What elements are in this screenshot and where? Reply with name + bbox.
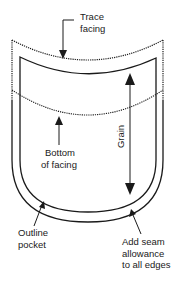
outer-outline	[12, 100, 163, 222]
seam-allowance-label: Add seam allowance to all edges	[122, 236, 171, 271]
seam-allowance-leader	[133, 215, 141, 234]
bottom-of-facing-label: Bottom of facing	[41, 147, 77, 170]
grain-arrowhead-bottom	[125, 183, 135, 195]
trace-facing-label: Trace facing	[80, 11, 105, 34]
facing-bottom-line	[12, 90, 163, 115]
seam-allowance-arrowhead	[129, 209, 136, 217]
seam-allowance-outline-top	[12, 40, 163, 60]
grain-label: Grain	[115, 125, 126, 148]
grain-arrowhead-top	[125, 73, 135, 85]
trace-facing-leader	[63, 20, 74, 52]
outline-pocket-leader	[34, 205, 42, 226]
pocket-outline	[20, 57, 156, 212]
outline-pocket-label: Outline pocket	[18, 227, 48, 250]
bottom-facing-arrowhead	[55, 116, 63, 125]
